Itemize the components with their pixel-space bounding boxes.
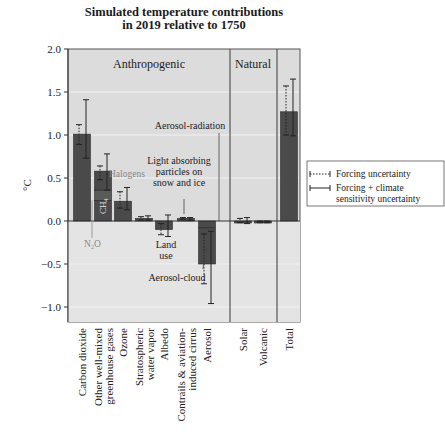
x-category-label: Volcanic xyxy=(257,328,269,366)
legend-forcing-uncertainty: Forcing uncertainty xyxy=(336,169,411,179)
bar xyxy=(281,112,298,221)
y-tick-label: −0.5 xyxy=(41,258,61,270)
x-category-label: Total xyxy=(283,328,295,350)
section-anthropogenic: Anthropogenic xyxy=(113,57,185,71)
annotation-aerosol-radiation: Aerosol-radiation xyxy=(155,120,226,131)
bar-segment xyxy=(199,221,216,228)
annotation-aerosol-cloud: Aerosol-cloud xyxy=(148,272,205,283)
annotation-light-absorbing-particles: snow and ice xyxy=(153,177,206,188)
legend-forcing-climate-uncertainty: sensitivity uncertainty xyxy=(336,194,420,204)
chart-title: Simulated temperature contributionsin 20… xyxy=(85,5,284,32)
y-axis: 2.01.51.00.50.0−0.5−1.0°C xyxy=(21,43,68,322)
title-line: Simulated temperature contributions xyxy=(85,5,284,19)
x-category-label: water vapor xyxy=(144,328,156,381)
y-axis-label: °C xyxy=(21,179,33,191)
annotation-land-use: use xyxy=(159,250,173,261)
annotation-land-use: Land xyxy=(156,239,177,250)
x-category-label: greenhouse gases xyxy=(103,328,115,405)
x-category-label: Ozone xyxy=(117,328,129,357)
x-axis-labels: Carbon dioxideOther well-mixedgreenhouse… xyxy=(76,328,295,422)
x-category-label: Solar xyxy=(237,328,249,352)
title-line: in 2019 relative to 1750 xyxy=(122,18,245,32)
bar xyxy=(74,134,91,221)
y-tick-label: 1.5 xyxy=(47,86,61,98)
annotation-halogens: Halogens xyxy=(109,169,145,179)
x-category-label: Albedo xyxy=(158,328,170,361)
annotation-light-absorbing-particles: Light absorbing xyxy=(147,155,211,166)
y-tick-label: 2.0 xyxy=(47,43,61,55)
y-tick-label: 1.0 xyxy=(47,129,61,141)
x-category-label: induced cirrus xyxy=(186,328,198,391)
bar xyxy=(115,201,132,221)
section-natural: Natural xyxy=(235,57,272,71)
bar-segment xyxy=(199,228,216,264)
legend: Forcing uncertaintyForcing + climatesens… xyxy=(307,161,444,206)
bar xyxy=(156,221,173,230)
y-tick-label: 0.0 xyxy=(47,215,61,227)
annotation-light-absorbing-particles: particles on xyxy=(156,166,202,177)
y-tick-label: −1.0 xyxy=(41,301,61,313)
legend-forcing-climate-uncertainty: Forcing + climate xyxy=(336,183,404,193)
x-category-label: Carbon dioxide xyxy=(76,328,88,396)
x-category-label: Aerosol xyxy=(201,328,213,363)
y-tick-label: 0.5 xyxy=(47,172,61,184)
temperature-contributions-chart: Simulated temperature contributionsin 20… xyxy=(0,0,445,443)
